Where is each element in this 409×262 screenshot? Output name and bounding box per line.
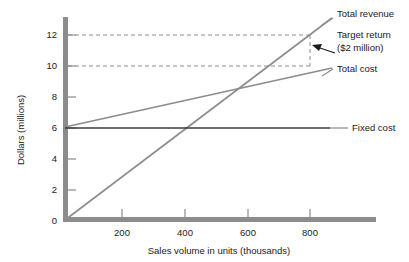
x-tick-label-600: 600 bbox=[240, 227, 256, 238]
y-tick-label-4: 4 bbox=[52, 153, 57, 164]
y-tick-label-12: 12 bbox=[46, 29, 57, 40]
y-tick-label-6: 6 bbox=[52, 122, 57, 133]
y-axis-title: Dollars (millions) bbox=[15, 95, 26, 165]
series-label-fixed-cost: Fixed cost bbox=[352, 122, 396, 133]
y-tick-label-8: 8 bbox=[52, 91, 57, 102]
series-label-total-revenue: Total revenue bbox=[337, 8, 394, 19]
x-tick-label-200: 200 bbox=[114, 227, 130, 238]
y-tick-label-2: 2 bbox=[52, 184, 57, 195]
y-tick-label-10: 10 bbox=[46, 60, 57, 71]
y-axis bbox=[63, 17, 68, 222]
chart-canvas: 12 10 8 6 4 2 0 200 400 600 800 Sales vo… bbox=[0, 0, 409, 262]
annotation-target-return-line2: ($2 million) bbox=[337, 42, 383, 53]
break-even-chart: 12 10 8 6 4 2 0 200 400 600 800 Sales vo… bbox=[0, 0, 409, 262]
series-label-total-cost: Total cost bbox=[337, 63, 377, 74]
x-axis bbox=[63, 217, 376, 222]
x-axis-title: Sales volume in units (thousands) bbox=[148, 245, 291, 256]
y-tick-label-0: 0 bbox=[52, 215, 57, 226]
annotation-target-return-line1: Target return bbox=[337, 29, 391, 40]
x-tick-label-800: 800 bbox=[302, 227, 318, 238]
x-tick-label-400: 400 bbox=[177, 227, 193, 238]
